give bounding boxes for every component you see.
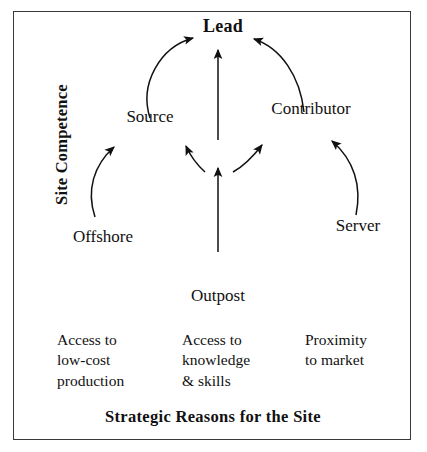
reason-proximity-to-market: Proximity to market (305, 330, 367, 371)
node-source[interactable]: Source (126, 107, 173, 127)
arrow-source-to-lead (147, 38, 193, 118)
arrow-server-to-contributor (332, 141, 358, 215)
node-outpost[interactable]: Outpost (191, 286, 245, 306)
arrow-outpost-to-contributor (233, 145, 262, 172)
diagram-bottom-title: Strategic Reasons for the Site (105, 407, 321, 426)
reason-access-knowledge-skills: Access to knowledge & skills (182, 330, 250, 391)
axis-label-site-competence: Site Competence (52, 84, 71, 205)
arrow-outpost-to-source (186, 146, 205, 172)
node-server[interactable]: Server (336, 216, 380, 236)
node-contributor[interactable]: Contributor (271, 99, 350, 119)
arrow-offshore-to-source (91, 147, 114, 217)
reason-access-low-cost-production: Access to low-cost production (57, 330, 124, 391)
diagram-figure: Site Competence Lead Source Contributor … (0, 0, 427, 452)
node-offshore[interactable]: Offshore (73, 227, 133, 247)
node-lead[interactable]: Lead (203, 16, 243, 37)
